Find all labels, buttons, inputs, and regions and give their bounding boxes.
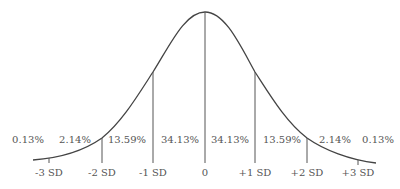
percent-label: 2.14%	[319, 134, 351, 145]
tick-label: +1 SD	[239, 167, 272, 178]
tick-label: 0	[202, 167, 208, 178]
percent-label: 0.13%	[12, 134, 44, 145]
percent-label: 2.14%	[59, 134, 91, 145]
percent-label: 13.59%	[263, 134, 301, 145]
tick-label: -1 SD	[139, 167, 167, 178]
tick-label: -3 SD	[35, 167, 63, 178]
percent-label: 13.59%	[108, 134, 146, 145]
percent-label: 34.13%	[161, 134, 199, 145]
tick-label: +2 SD	[291, 167, 324, 178]
percent-label: 0.13%	[362, 134, 394, 145]
tick-label: +3 SD	[342, 167, 375, 178]
tick-label: -2 SD	[88, 167, 116, 178]
percent-label: 34.13%	[211, 134, 249, 145]
normal-curve-plot	[0, 0, 400, 189]
